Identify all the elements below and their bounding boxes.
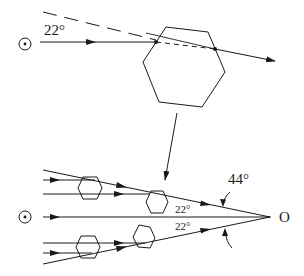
lower-converging-arrowhead-2 (200, 228, 211, 234)
apex-label: O (279, 209, 290, 225)
upper-converging-arrowhead (116, 182, 127, 188)
lower-angle-arc-arrowhead (222, 228, 228, 236)
circle-dot-icon (19, 38, 31, 50)
lower-ray-1-arrowhead (114, 240, 124, 246)
halo-diagram: 22° (0, 0, 304, 276)
hexagon-crystal-2 (146, 191, 168, 213)
lower-converging-arrowhead (116, 246, 127, 252)
bottom-panel: 22° 22° 44° O (19, 170, 290, 264)
upper-ray-2-arrowhead (114, 191, 124, 197)
upper-angle-label: 22° (175, 203, 190, 215)
hexagon-crystal-large (143, 27, 225, 107)
upper-angle-arc-arrowhead (220, 199, 226, 207)
top-panel: 22° (19, 12, 275, 107)
central-axis-arrowhead (50, 214, 60, 220)
apex-point (269, 216, 271, 218)
entry-point (154, 40, 158, 44)
lower-angle-label: 22° (175, 220, 190, 232)
lower-converging-ray (43, 217, 270, 264)
lower-ray-2-arrowhead (50, 250, 60, 256)
hexagon-crystal-4 (133, 225, 155, 248)
emergent-ray (215, 49, 275, 61)
upper-ray-1-arrowhead (50, 177, 60, 183)
circle-dot-icon (19, 211, 31, 223)
incident-ray-arrowhead (86, 39, 96, 45)
exit-point (213, 47, 217, 51)
connector-arrow (165, 113, 177, 180)
upper-converging-arrowhead-2 (200, 201, 211, 207)
total-angle-label: 44° (228, 171, 249, 187)
internal-ray (156, 42, 215, 49)
top-angle-label: 22° (44, 22, 65, 38)
